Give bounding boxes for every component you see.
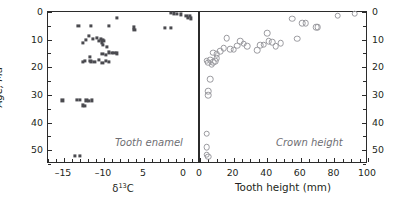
y-axis-tick-label: 0 <box>372 6 378 17</box>
data-point <box>264 30 271 37</box>
data-point <box>77 24 80 27</box>
y-axis-major-tick <box>48 123 52 124</box>
isotope-mass-superscript: 13 <box>118 182 126 190</box>
x-axis-minor-tick <box>88 159 89 162</box>
data-point <box>78 154 81 157</box>
data-point <box>83 104 86 107</box>
carbon-symbol: C <box>127 183 134 194</box>
y-axis-major-tick <box>362 95 366 96</box>
panel-caption-crown-height: Crown height <box>276 137 343 148</box>
y-axis-minor-tick <box>363 164 366 165</box>
x-axis-minor-tick <box>309 159 310 162</box>
data-point <box>104 53 107 56</box>
x-axis-minor-tick <box>259 159 260 162</box>
data-point <box>217 48 224 55</box>
x-axis-tick-label: 0 <box>180 167 186 178</box>
x-axis-tick-label: –10 <box>95 167 112 178</box>
data-point <box>303 20 310 27</box>
y-axis-tick-label: 10 <box>372 33 384 44</box>
data-point <box>230 46 237 53</box>
x-axis-major-tick <box>64 158 65 162</box>
data-point <box>107 24 110 27</box>
x-axis-tick-label: 0 <box>196 167 202 178</box>
data-point <box>244 43 251 50</box>
x-axis-tick-label: 60 <box>294 167 306 178</box>
data-point <box>91 37 94 40</box>
x-axis-minor-tick <box>318 159 319 162</box>
x-axis-minor-tick <box>168 159 169 162</box>
x-axis-tick-label: 40 <box>260 167 272 178</box>
data-point <box>175 12 178 15</box>
data-point <box>87 34 90 37</box>
y-axis-minor-tick <box>363 26 366 27</box>
x-axis-minor-tick <box>292 159 293 162</box>
data-point <box>277 40 284 47</box>
y-axis-tick-label: 0 <box>37 6 43 17</box>
x-axis-major-tick <box>184 158 185 162</box>
x-axis-minor-tick <box>112 159 113 162</box>
data-point <box>133 28 136 31</box>
x-axis-tick-label: 100 <box>358 167 376 178</box>
y-axis-tick-label: 20 <box>31 61 43 72</box>
x-axis-major-tick <box>267 158 268 162</box>
panel-caption-tooth-enamel: Tooth enamel <box>115 137 183 148</box>
data-point <box>190 17 193 20</box>
x-axis-minor-tick <box>326 159 327 162</box>
x-axis-minor-tick <box>152 159 153 162</box>
y-axis-major-tick <box>362 150 366 151</box>
y-axis-tick-label: 50 <box>372 144 384 155</box>
data-point <box>101 52 104 55</box>
y-axis-major-tick <box>362 123 366 124</box>
data-point <box>74 154 77 157</box>
data-point <box>106 45 109 48</box>
x-axis-tick-label: 5 <box>140 167 146 178</box>
y-axis-major-tick <box>362 67 366 68</box>
data-point <box>102 43 105 46</box>
x-axis-title-isotope: δ13C <box>112 182 134 194</box>
x-axis-minor-tick <box>136 159 137 162</box>
data-point <box>179 13 182 16</box>
x-axis-minor-tick <box>351 159 352 162</box>
data-point <box>257 42 264 49</box>
x-axis-minor-tick <box>72 159 73 162</box>
data-point <box>207 76 214 83</box>
y-axis-tick-label: 50 <box>31 144 43 155</box>
x-axis-major-tick <box>104 158 105 162</box>
x-axis-minor-tick <box>192 159 193 162</box>
x-axis-major-tick <box>368 158 369 162</box>
data-point <box>205 154 212 161</box>
y-axis-major-tick <box>48 40 52 41</box>
y-axis-tick-label: 40 <box>31 116 43 127</box>
y-axis-major-tick <box>48 95 52 96</box>
data-point <box>82 41 85 44</box>
x-axis-minor-tick <box>128 159 129 162</box>
y-axis-tick-label: 20 <box>372 61 384 72</box>
data-point <box>294 35 301 42</box>
data-point <box>90 99 93 102</box>
x-axis-major-tick <box>234 158 235 162</box>
y-axis-tick-label: 40 <box>372 116 384 127</box>
x-axis-minor-tick <box>343 159 344 162</box>
x-axis-minor-tick <box>276 159 277 162</box>
data-point <box>61 99 64 102</box>
data-point <box>90 24 93 27</box>
y-axis-tick-label: 30 <box>31 88 43 99</box>
y-axis-minor-tick <box>48 136 51 137</box>
x-axis-minor-tick <box>160 159 161 162</box>
y-axis-major-tick <box>362 40 366 41</box>
data-point <box>205 92 212 99</box>
y-axis-minor-tick <box>48 109 51 110</box>
x-axis-minor-tick <box>225 159 226 162</box>
x-axis-major-tick <box>200 158 201 162</box>
x-axis-minor-tick <box>48 159 49 162</box>
data-point <box>115 16 118 19</box>
data-point <box>203 130 210 137</box>
y-axis-minor-tick <box>363 136 366 137</box>
x-axis-minor-tick <box>120 159 121 162</box>
x-axis-major-tick <box>301 158 302 162</box>
y-axis-minor-tick <box>363 109 366 110</box>
x-axis-minor-tick <box>242 159 243 162</box>
x-axis-tick-label: –15 <box>55 167 72 178</box>
data-point <box>314 24 321 31</box>
y-axis-minor-tick <box>363 53 366 54</box>
